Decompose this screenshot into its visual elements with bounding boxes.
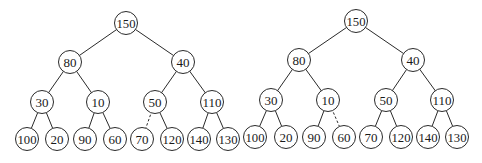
tree-node: 90 <box>303 126 326 149</box>
node-label: 50 <box>149 95 162 110</box>
node-label: 100 <box>246 130 265 145</box>
node-label: 120 <box>392 130 411 145</box>
tree-node: 150 <box>115 12 138 35</box>
tree-node: 30 <box>260 89 283 112</box>
tree-node: 80 <box>59 51 82 74</box>
node-label: 40 <box>407 53 420 68</box>
tree-node: 100 <box>16 128 39 151</box>
node-label: 70 <box>365 130 378 145</box>
tree-node: 20 <box>46 128 69 151</box>
node-label: 10 <box>92 95 105 110</box>
tree-node: 110 <box>431 89 454 112</box>
tree-node: 60 <box>104 128 127 151</box>
tree-node: 10 <box>317 89 340 112</box>
node-label: 130 <box>219 132 238 147</box>
node-label: 10 <box>322 93 335 108</box>
node-label: 140 <box>419 130 438 145</box>
node-label: 120 <box>163 132 182 147</box>
node-label: 60 <box>338 130 351 145</box>
node-label: 150 <box>347 14 366 29</box>
node-label: 80 <box>64 55 77 70</box>
tree-node: 120 <box>390 126 413 149</box>
right-tree-nodes: 150804030105011010020906070120140130 <box>244 10 469 149</box>
tree-node: 50 <box>144 91 167 114</box>
node-label: 40 <box>177 55 190 70</box>
node-label: 140 <box>190 132 209 147</box>
nodes-layer: 1508040301050110100209060701201401301508… <box>16 10 469 151</box>
edges-layer <box>27 21 457 139</box>
tree-node: 30 <box>31 91 54 114</box>
tree-node: 20 <box>275 126 298 149</box>
node-label: 110 <box>433 93 452 108</box>
node-label: 90 <box>308 130 321 145</box>
tree-node: 50 <box>375 89 398 112</box>
node-label: 30 <box>265 93 278 108</box>
tree-node: 120 <box>161 128 184 151</box>
node-label: 80 <box>293 53 306 68</box>
tree-node: 150 <box>345 10 368 33</box>
node-label: 70 <box>136 132 149 147</box>
binary-tree-diagram: 1508040301050110100209060701201401301508… <box>0 0 482 163</box>
node-label: 130 <box>448 130 467 145</box>
tree-node: 140 <box>188 128 211 151</box>
tree-node: 80 <box>288 49 311 72</box>
node-label: 110 <box>203 95 222 110</box>
tree-node: 140 <box>417 126 440 149</box>
tree-node: 90 <box>74 128 97 151</box>
left-tree-nodes: 150804030105011010020906070120140130 <box>16 12 240 151</box>
node-label: 20 <box>51 132 64 147</box>
tree-node: 40 <box>172 51 195 74</box>
tree-node: 70 <box>360 126 383 149</box>
tree-node: 100 <box>244 126 267 149</box>
tree-node: 70 <box>131 128 154 151</box>
tree-node: 130 <box>446 126 469 149</box>
tree-node: 60 <box>333 126 356 149</box>
node-label: 150 <box>117 16 136 31</box>
node-label: 100 <box>18 132 37 147</box>
tree-node: 10 <box>87 91 110 114</box>
tree-node: 110 <box>201 91 224 114</box>
node-label: 50 <box>380 93 393 108</box>
left-tree-edges <box>27 23 228 139</box>
node-label: 20 <box>280 130 293 145</box>
node-label: 90 <box>79 132 92 147</box>
tree-node: 130 <box>217 128 240 151</box>
node-label: 60 <box>109 132 122 147</box>
right-tree-edges <box>255 21 457 137</box>
tree-node: 40 <box>402 49 425 72</box>
node-label: 30 <box>36 95 49 110</box>
